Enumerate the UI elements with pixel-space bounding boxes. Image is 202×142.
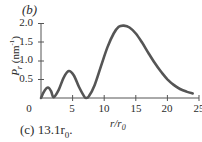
plot-area xyxy=(0,0,202,142)
data-line xyxy=(41,26,193,98)
answer-text: (c) 13.1r0. xyxy=(20,122,73,140)
